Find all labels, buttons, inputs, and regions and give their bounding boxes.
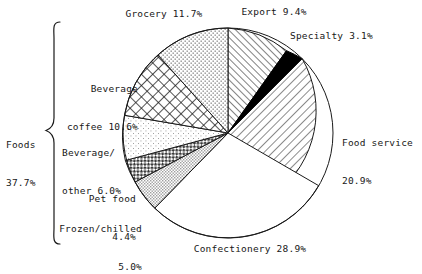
group-label-foods: Foods 37.7%: [6, 114, 54, 214]
slice-label-pet-food-line2: 4.4%: [36, 231, 136, 244]
group-label-foods-line2: 37.7%: [6, 177, 54, 190]
group-label-foods-line1: Foods: [6, 139, 54, 152]
slice-label-grocery: Grocery 11.7%: [104, 8, 224, 21]
slice-label-specialty: Specialty 3.1%: [290, 30, 420, 43]
slice-label-food-service: Food service 20.9%: [342, 112, 422, 212]
slice-label-beverage-other-line2: other 6.0%: [62, 185, 172, 198]
slice-label-confectionery: Confectionery 28.9%: [150, 243, 350, 256]
slice-label-food-service-line1: Food service: [342, 137, 422, 150]
slice-label-beverage-coffee-line1: Beverage: [38, 83, 138, 96]
slice-label-food-service-line2: 20.9%: [342, 175, 422, 188]
slice-label-export: Export 9.4%: [222, 6, 326, 19]
